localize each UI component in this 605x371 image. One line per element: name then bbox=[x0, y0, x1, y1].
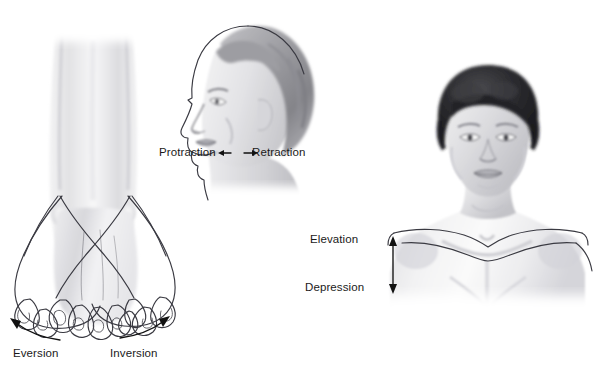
label-elevation: Elevation bbox=[310, 234, 358, 246]
label-protraction: Protraction bbox=[159, 147, 216, 159]
head-profile-panel: Protraction Retraction bbox=[150, 0, 340, 200]
eversion-arrow bbox=[10, 318, 60, 340]
illustration-canvas: Eversion Inversion bbox=[0, 0, 605, 371]
label-eversion: Eversion bbox=[13, 348, 59, 360]
neutral-foot bbox=[49, 208, 146, 340]
protraction-retraction-arrows bbox=[218, 146, 262, 162]
shoulders-illustration bbox=[380, 55, 605, 320]
shoulders-panel bbox=[380, 55, 605, 320]
label-depression: Depression bbox=[305, 282, 364, 294]
label-inversion: Inversion bbox=[110, 348, 158, 360]
head-profile-illustration bbox=[150, 0, 340, 200]
